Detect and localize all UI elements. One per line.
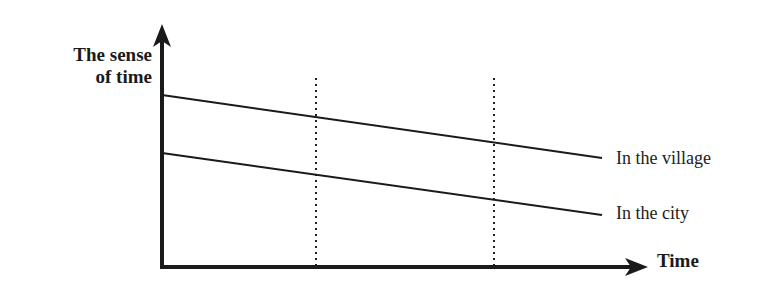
x-axis-label: Time — [657, 250, 699, 272]
city-label: In the city — [616, 203, 689, 224]
city-line — [162, 153, 602, 215]
village-label: In the village — [616, 148, 711, 169]
village-line — [162, 95, 602, 158]
y-axis-label-line-2: of time — [73, 66, 152, 88]
y-axis-label: The sense of time — [73, 44, 152, 88]
y-axis-label-line-1: The sense — [73, 44, 152, 66]
